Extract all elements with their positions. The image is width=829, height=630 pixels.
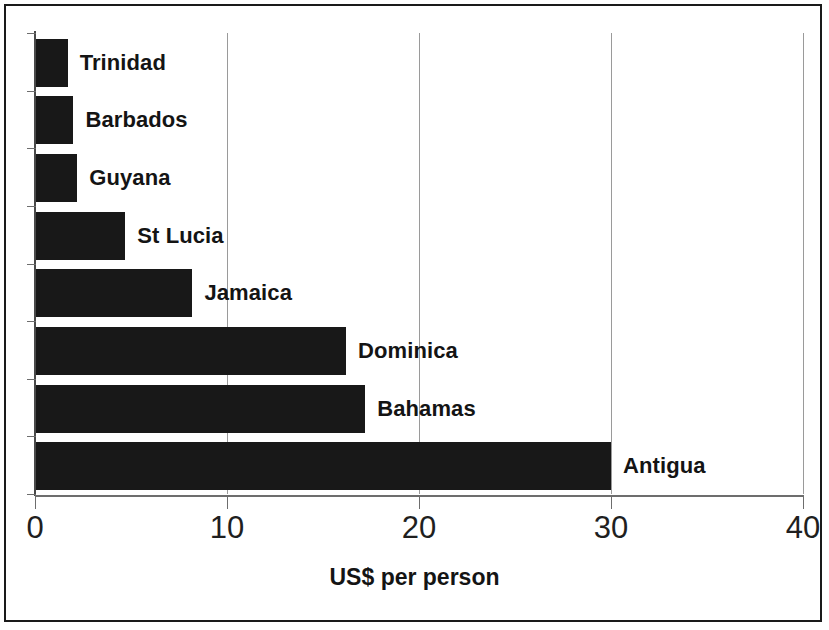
bar-row: St Lucia xyxy=(35,212,803,260)
bar-label: Trinidad xyxy=(80,50,166,76)
bar xyxy=(35,327,346,375)
bar xyxy=(35,269,192,317)
value-tick-10 xyxy=(227,496,228,509)
value-tick-40 xyxy=(803,496,804,509)
bar-row: Antigua xyxy=(35,442,803,490)
bar-label: Antigua xyxy=(623,453,706,479)
bar xyxy=(35,96,73,144)
bar-row: Guyana xyxy=(35,154,803,202)
frame-right-margin xyxy=(824,0,829,630)
bar-label: Dominica xyxy=(358,338,458,364)
x-axis-title: US$ per person xyxy=(0,564,829,591)
bar xyxy=(35,212,125,260)
category-tick xyxy=(27,148,36,149)
bar-label: Jamaica xyxy=(204,280,292,306)
bar-label: Guyana xyxy=(89,165,170,191)
value-tick-20 xyxy=(419,496,420,509)
bar xyxy=(35,442,611,490)
bar-row: Jamaica xyxy=(35,269,803,317)
value-tick-label-0: 0 xyxy=(26,512,43,543)
category-tick xyxy=(27,91,36,92)
value-tick-label-40: 40 xyxy=(786,512,820,543)
value-tick-label-10: 10 xyxy=(210,512,244,543)
value-tick-label-30: 30 xyxy=(594,512,628,543)
bar-row: Bahamas xyxy=(35,385,803,433)
value-tick-label-20: 20 xyxy=(402,512,436,543)
category-tick xyxy=(27,33,36,34)
bar xyxy=(35,39,68,87)
category-tick xyxy=(27,379,36,380)
value-tick-0 xyxy=(35,496,36,509)
frame-bottom-margin xyxy=(0,626,829,630)
bar xyxy=(35,385,365,433)
value-tick-30 xyxy=(611,496,612,509)
category-tick xyxy=(27,264,36,265)
bar-row: Dominica xyxy=(35,327,803,375)
chart-page: TrinidadBarbadosGuyanaSt LuciaJamaicaDom… xyxy=(0,0,829,630)
bar-row: Barbados xyxy=(35,96,803,144)
bar-label: Bahamas xyxy=(377,396,476,422)
category-tick xyxy=(27,436,36,437)
bar-label: Barbados xyxy=(85,107,187,133)
gridline-40 xyxy=(803,33,804,494)
bar-row: Trinidad xyxy=(35,39,803,87)
category-tick xyxy=(27,206,36,207)
category-tick xyxy=(27,321,36,322)
plot-area: TrinidadBarbadosGuyanaSt LuciaJamaicaDom… xyxy=(35,33,803,494)
bar-label: St Lucia xyxy=(137,223,223,249)
bar xyxy=(35,154,77,202)
category-tick xyxy=(27,494,36,495)
